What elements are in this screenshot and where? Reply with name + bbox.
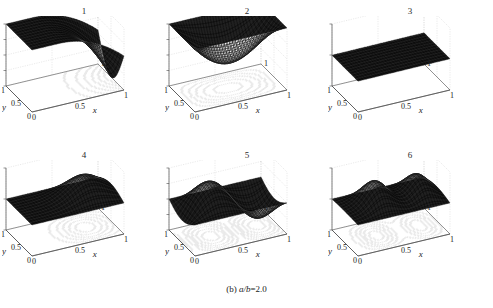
svg-text:0: 0 — [27, 256, 31, 265]
svg-text:0.5: 0.5 — [11, 243, 21, 252]
panel-title: 5 — [165, 150, 329, 160]
svg-text:0.5: 0.5 — [401, 102, 411, 111]
svg-text:0.5: 0.5 — [238, 102, 248, 111]
surface-panel-4: 4 0.050-0.0510.5000.511yx — [2, 148, 166, 290]
svg-text:0: 0 — [353, 256, 357, 265]
svg-text:0: 0 — [32, 257, 36, 266]
surface-panel-3: 3 0.050-0.0510.5000.511yx — [328, 4, 492, 146]
svg-text:x: x — [418, 105, 423, 115]
panel-title: 6 — [328, 150, 492, 160]
svg-text:0.5: 0.5 — [11, 99, 21, 108]
svg-text:0: 0 — [195, 257, 199, 266]
svg-text:0.5: 0.5 — [75, 246, 85, 255]
svg-text:0.5: 0.5 — [174, 243, 184, 252]
svg-text:y: y — [2, 246, 6, 256]
plot-area: 0.020.010-0.01-0.0210.5000.511yx — [165, 160, 329, 294]
svg-text:1: 1 — [2, 86, 5, 95]
svg-text:1: 1 — [2, 230, 5, 239]
panel-title: 2 — [165, 6, 329, 16]
svg-text:x: x — [255, 105, 260, 115]
svg-text:1: 1 — [287, 91, 291, 100]
caption-suffix: =2.0 — [250, 284, 266, 294]
svg-text:0.5: 0.5 — [337, 243, 347, 252]
svg-text:1: 1 — [101, 203, 105, 212]
plot-area: 0.050-0.0510.5000.511yx — [328, 160, 492, 294]
svg-text:1: 1 — [328, 230, 331, 239]
svg-text:0.5: 0.5 — [75, 102, 85, 111]
svg-text:1: 1 — [427, 59, 431, 68]
svg-text:y: y — [328, 246, 332, 256]
svg-text:1: 1 — [450, 235, 454, 244]
svg-text:x: x — [92, 105, 97, 115]
svg-text:1: 1 — [450, 91, 454, 100]
svg-text:y: y — [328, 102, 332, 112]
svg-text:y: y — [165, 102, 169, 112]
svg-text:1: 1 — [124, 235, 128, 244]
surface-panel-6: 6 0.050-0.0510.5000.511yx — [328, 148, 492, 290]
panel-title: 1 — [2, 6, 166, 16]
svg-text:0.5: 0.5 — [401, 246, 411, 255]
svg-text:x: x — [255, 249, 260, 259]
svg-text:1: 1 — [287, 235, 291, 244]
svg-text:0.5: 0.5 — [337, 99, 347, 108]
figure-caption: (b) a/b=2.0 — [0, 284, 493, 294]
svg-text:1: 1 — [101, 59, 105, 68]
svg-text:0: 0 — [190, 112, 194, 121]
svg-text:y: y — [2, 102, 6, 112]
plot-area: 0.050-0.0510.5000.511yx — [2, 160, 166, 294]
svg-text:0: 0 — [353, 112, 357, 121]
surface-panel-1: 1 0-0.01-0.02-0.03-0.0410.5000.511yx — [2, 4, 166, 146]
panel-title: 4 — [2, 150, 166, 160]
svg-text:x: x — [418, 249, 423, 259]
svg-text:0.5: 0.5 — [238, 246, 248, 255]
caption-prefix: (b) — [226, 284, 239, 294]
svg-text:1: 1 — [264, 59, 268, 68]
figure-container: 1 0-0.01-0.02-0.03-0.0410.5000.511yx 2 0… — [0, 0, 493, 308]
svg-text:1: 1 — [427, 203, 431, 212]
plot-area: 0.050-0.0510.5000.511yx — [328, 16, 492, 150]
svg-text:1: 1 — [165, 230, 168, 239]
svg-text:1: 1 — [124, 91, 128, 100]
svg-text:0: 0 — [190, 256, 194, 265]
svg-text:1: 1 — [165, 86, 168, 95]
plot-area: 0-0.01-0.02-0.03-0.0410.5000.511yx — [165, 16, 329, 150]
svg-text:1: 1 — [264, 203, 268, 212]
svg-text:y: y — [165, 246, 169, 256]
svg-text:0: 0 — [32, 113, 36, 122]
surface-panel-2: 2 0-0.01-0.02-0.03-0.0410.5000.511yx — [165, 4, 329, 146]
svg-text:0: 0 — [27, 112, 31, 121]
svg-text:0: 0 — [358, 113, 362, 122]
caption-expression: a/b — [239, 284, 251, 294]
svg-text:0: 0 — [195, 113, 199, 122]
surface-panel-5: 5 0.020.010-0.01-0.0210.5000.511yx — [165, 148, 329, 290]
svg-text:0: 0 — [358, 257, 362, 266]
svg-text:1: 1 — [328, 86, 331, 95]
plot-area: 0-0.01-0.02-0.03-0.0410.5000.511yx — [2, 16, 166, 150]
svg-text:0.5: 0.5 — [174, 99, 184, 108]
svg-text:x: x — [92, 249, 97, 259]
panel-title: 3 — [328, 6, 492, 16]
